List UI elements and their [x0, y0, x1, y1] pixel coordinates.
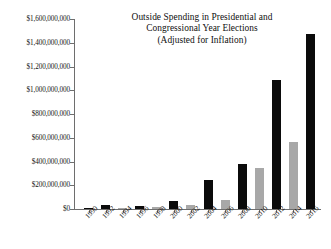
x-axis-tick: [174, 210, 175, 213]
y-axis-labels: $0 $200,000,000 $400,000,000 $600,000,00…: [0, 0, 72, 249]
y-axis-tick: [70, 138, 74, 139]
x-axis-tick: [242, 210, 243, 213]
bar-2014: [289, 142, 298, 209]
y-axis-tick: [70, 162, 74, 163]
x-axis-tick: [225, 210, 226, 213]
bar-1998: [152, 207, 161, 209]
y-axis-tick-label: $800,000,000: [32, 110, 70, 118]
y-axis-line: [74, 19, 75, 210]
x-axis-tick: [123, 210, 124, 213]
y-axis-tick-label: $200,000,000: [32, 181, 70, 189]
y-axis-tick-label: $1,400,000,000: [26, 39, 70, 47]
bar-1996: [135, 206, 144, 209]
y-axis-tick-label: $400,000,000: [32, 158, 70, 166]
y-axis-tick: [70, 67, 74, 68]
x-axis-tick: [106, 210, 107, 213]
x-axis-tick: [157, 210, 158, 213]
y-axis-tick-label: $600,000,000: [32, 134, 70, 142]
y-axis-tick-label: $1,200,000,000: [26, 63, 70, 71]
y-axis-tick-label: $1,000,000,000: [26, 86, 70, 94]
y-axis-tick-label: $0: [63, 205, 70, 213]
bar-2008: [238, 164, 247, 209]
bar-1994: [118, 208, 127, 209]
bar-2006: [221, 200, 230, 210]
x-axis-tick: [276, 210, 277, 213]
y-axis-tick: [70, 43, 74, 44]
y-axis-tick: [70, 209, 74, 210]
y-axis-tick-label: $1,600,000,000: [26, 15, 70, 23]
x-axis-tick: [191, 210, 192, 213]
bar-2000: [169, 201, 178, 209]
x-axis-line: [74, 209, 321, 210]
y-axis-tick: [70, 185, 74, 186]
bar-1990: [84, 208, 93, 209]
y-axis-tick: [70, 90, 74, 91]
x-axis-tick: [310, 210, 311, 213]
bar-2010: [255, 168, 264, 209]
bar-2012: [272, 80, 281, 209]
bar-2004: [204, 180, 213, 209]
bar-2002: [186, 205, 195, 209]
x-axis-tick: [293, 210, 294, 213]
x-axis-tick: [208, 210, 209, 213]
x-axis-tick: [259, 210, 260, 213]
chart-container: Outside Spending in Presidential and Con…: [0, 0, 331, 249]
bar-2016: [306, 34, 315, 209]
bar-1992: [101, 205, 110, 209]
y-axis-tick: [70, 114, 74, 115]
x-axis-tick: [89, 210, 90, 213]
x-axis-tick: [140, 210, 141, 213]
plot-area: [74, 19, 321, 210]
y-axis-tick: [70, 19, 74, 20]
